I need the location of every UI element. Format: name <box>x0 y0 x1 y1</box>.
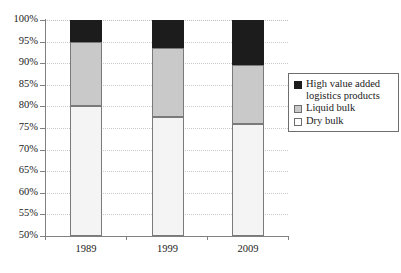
y-tick-mark <box>40 20 45 21</box>
y-tick-label: 60% <box>0 187 38 197</box>
y-tick-label: 70% <box>0 144 38 154</box>
x-axis-line <box>45 236 289 237</box>
legend-item-liquid-bulk: Liquid bulk <box>294 102 395 114</box>
x-tick-label-2009: 2009 <box>218 243 278 255</box>
bar-1989 <box>70 20 102 236</box>
legend-label-dry-bulk: Dry bulk <box>306 115 344 127</box>
y-tick-mark <box>40 193 45 194</box>
y-axis-line <box>45 19 46 237</box>
chart-legend: High value added logistics products Liqu… <box>288 73 399 132</box>
bar-segment-dry-bulk-1999 <box>152 117 184 236</box>
legend-item-dry-bulk: Dry bulk <box>294 115 395 127</box>
x-tick-mark <box>45 236 46 240</box>
x-tick-mark <box>288 236 289 240</box>
y-tick-mark <box>40 106 45 107</box>
legend-swatch-liquid-bulk-icon <box>294 105 302 113</box>
bar-segment-high-value-2009 <box>232 20 264 65</box>
y-tick-label: 65% <box>0 165 38 175</box>
y-tick-mark <box>40 63 45 64</box>
y-tick-label: 75% <box>0 122 38 132</box>
y-tick-label: 100% <box>0 14 38 24</box>
bar-segment-dry-bulk-2009 <box>232 124 264 236</box>
bar-segment-high-value-1999 <box>152 20 184 48</box>
x-tick-mark <box>207 236 208 240</box>
legend-swatch-high-value-icon <box>294 81 302 89</box>
y-tick-label: 80% <box>0 100 38 110</box>
y-tick-label: 95% <box>0 36 38 46</box>
y-tick-label: 85% <box>0 79 38 89</box>
y-tick-label: 90% <box>0 57 38 67</box>
legend-label-high-value: High value added logistics products <box>306 78 395 101</box>
y-tick-mark <box>40 128 45 129</box>
bar-segment-liquid-bulk-2009 <box>232 65 264 123</box>
x-tick-label-1989: 1989 <box>56 243 116 255</box>
bar-1999 <box>152 20 184 236</box>
y-tick-mark <box>40 150 45 151</box>
legend-label-liquid-bulk: Liquid bulk <box>306 102 355 114</box>
x-tick-mark <box>126 236 127 240</box>
x-tick-label-1999: 1999 <box>138 243 198 255</box>
bar-segment-dry-bulk-1989 <box>70 106 102 236</box>
y-tick-mark <box>40 42 45 43</box>
chart-root: 100%95%90%85%80%75%70%65%60%55%50% 19891… <box>0 0 401 273</box>
bar-segment-liquid-bulk-1999 <box>152 48 184 117</box>
bar-segment-liquid-bulk-1989 <box>70 42 102 107</box>
y-tick-mark <box>40 85 45 86</box>
y-tick-label: 55% <box>0 208 38 218</box>
legend-swatch-dry-bulk-icon <box>294 118 302 126</box>
y-tick-label: 50% <box>0 230 38 240</box>
y-tick-mark <box>40 214 45 215</box>
legend-item-high-value: High value added logistics products <box>294 78 395 101</box>
bar-2009 <box>232 20 264 236</box>
y-tick-mark <box>40 171 45 172</box>
bar-segment-high-value-1989 <box>70 20 102 42</box>
